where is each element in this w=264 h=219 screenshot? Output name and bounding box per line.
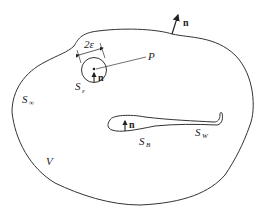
epsilon-dimension-label: 2ε xyxy=(84,38,95,50)
sphere-s-label: S xyxy=(75,80,81,92)
wake-s-label: S xyxy=(195,126,201,138)
sphere-s-sub: ε xyxy=(82,87,85,95)
outer-normal-arrow xyxy=(172,15,178,34)
wake-s-sub: W xyxy=(202,132,209,140)
outer-s-label: S xyxy=(22,93,28,105)
p-leader-line xyxy=(96,57,146,69)
point-p-label: P xyxy=(147,50,155,62)
body-s-sub: B xyxy=(146,141,151,149)
diagram-canvas: n n 2ε P S ε S ∞ V n S B S W xyxy=(0,0,264,219)
outer-s-sub: ∞ xyxy=(29,99,34,107)
volume-label: V xyxy=(46,155,54,167)
outer-normal-label: n xyxy=(183,17,189,28)
body-s-label: S xyxy=(139,135,145,147)
sphere-normal-label: n xyxy=(98,72,104,83)
dim-ext-left xyxy=(77,50,81,63)
body-normal-label: n xyxy=(129,119,135,130)
point-p-dot xyxy=(93,68,96,71)
dim-ext-right xyxy=(100,43,105,58)
outer-boundary xyxy=(12,29,253,205)
